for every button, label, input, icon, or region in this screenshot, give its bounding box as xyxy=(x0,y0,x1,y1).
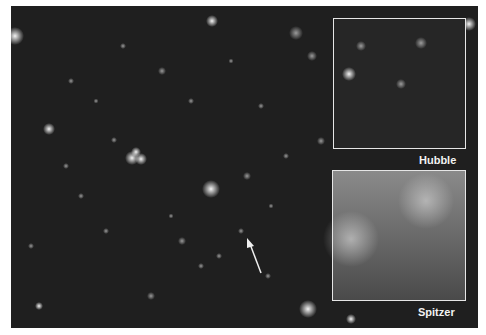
hubble-inset-frame xyxy=(333,18,466,149)
deep-field-image: Hubble Spitzer xyxy=(11,6,478,328)
spitzer-label: Spitzer xyxy=(418,306,455,318)
hubble-label: Hubble xyxy=(419,154,456,166)
spitzer-inset-frame xyxy=(332,170,466,301)
